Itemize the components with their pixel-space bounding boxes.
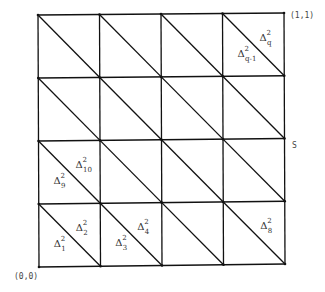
- grid-node: [221, 12, 224, 15]
- cell-diagonal: [223, 14, 285, 76]
- top-right-label: (1,1): [290, 11, 314, 20]
- cell-diagonal: [100, 15, 162, 77]
- triangle-label: Δ2q-1: [237, 45, 256, 63]
- grid-node: [160, 13, 163, 16]
- cell-diagonal: [38, 15, 100, 77]
- origin-label: (0,0): [14, 272, 38, 281]
- grid-node: [38, 266, 41, 269]
- grid-node: [283, 137, 286, 140]
- grid-node: [99, 139, 102, 142]
- grid-node: [98, 13, 101, 16]
- grid-node: [98, 76, 101, 79]
- grid-node: [37, 203, 40, 206]
- cell-diagonal: [162, 203, 224, 265]
- grid-node: [161, 264, 164, 267]
- triangulation-diagram: Δ21Δ22Δ23Δ24Δ28Δ29Δ210Δ2q-1Δ2q (0,0) (1,…: [0, 0, 325, 292]
- cell-diagonal: [100, 140, 162, 202]
- triangle-label: Δ2q: [259, 29, 272, 47]
- grid-node: [283, 12, 286, 15]
- triangle-label: Δ29: [53, 172, 65, 190]
- cell-diagonal: [38, 78, 100, 140]
- triangle-label: Δ24: [137, 218, 150, 236]
- cell-diagonal: [223, 139, 285, 201]
- grid-node: [99, 202, 102, 205]
- cell-diagonal: [100, 77, 162, 139]
- cell-diagonal: [39, 204, 101, 266]
- triangle-label: Δ210: [75, 156, 92, 174]
- grid-node: [160, 138, 163, 141]
- grid-node: [222, 263, 225, 266]
- grid-node: [37, 77, 40, 80]
- grid-node: [160, 76, 163, 79]
- grid-node: [283, 74, 286, 77]
- grid-node: [222, 138, 225, 141]
- cell-diagonal: [161, 77, 223, 139]
- grid-node: [160, 201, 163, 204]
- grid-node: [284, 263, 287, 266]
- triangle-label: Δ22: [76, 219, 88, 237]
- triangle-label: Δ21: [54, 235, 66, 253]
- cell-diagonal: [162, 140, 224, 202]
- grid-node: [37, 140, 40, 143]
- triangle-label: Δ28: [260, 217, 272, 235]
- grid-node: [222, 201, 225, 204]
- cell-diagonal: [223, 76, 285, 138]
- grid-node: [283, 200, 286, 203]
- cell-diagonal: [223, 202, 285, 264]
- grid-node: [99, 265, 102, 268]
- side-s-label: S: [292, 141, 297, 150]
- cell-diagonal: [161, 14, 223, 76]
- grid-node: [37, 14, 40, 17]
- cell-diagonal: [100, 203, 162, 265]
- triangle-label: Δ23: [115, 234, 127, 252]
- grid-node: [221, 75, 224, 78]
